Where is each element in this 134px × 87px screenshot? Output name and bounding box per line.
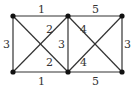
label-right-diag-lower: 4 [80,56,87,69]
label-right-vertical: 3 [124,38,131,51]
label-bottom-left-mid: 1 [38,75,45,87]
node-f [119,69,124,74]
node-d [10,69,15,74]
label-top-left-mid: 1 [38,3,45,16]
node-b [65,13,70,18]
label-left-vertical: 3 [3,38,10,51]
label-top-mid-right: 5 [92,3,99,16]
graph-diagram: 1 5 3 3 3 1 5 2 2 4 4 [0,0,134,87]
label-right-diag-upper: 4 [80,23,87,36]
node-c [119,13,124,18]
node-a [10,13,15,18]
node-e [65,69,70,74]
label-mid-vertical: 3 [58,38,65,51]
label-left-diag-lower: 2 [46,56,53,69]
label-left-diag-upper: 2 [46,23,53,36]
label-bottom-mid-right: 5 [92,75,99,87]
